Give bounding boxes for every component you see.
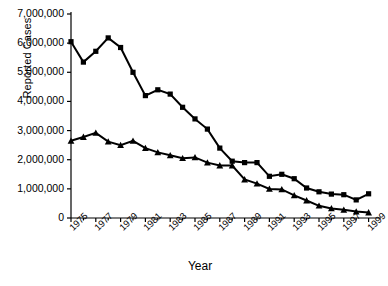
data-point-marker	[341, 192, 346, 197]
data-point-marker	[217, 146, 222, 151]
plot-area	[0, 0, 388, 286]
data-point-marker	[118, 45, 123, 50]
data-point-marker	[267, 174, 272, 179]
data-point-marker	[292, 176, 297, 181]
data-point-marker	[130, 70, 135, 75]
data-point-marker	[106, 35, 111, 40]
data-point-marker	[68, 39, 73, 44]
data-point-marker	[81, 60, 86, 65]
data-point-marker	[279, 172, 284, 177]
data-series	[68, 35, 372, 215]
series-line	[71, 38, 369, 200]
data-point-marker	[316, 189, 321, 194]
data-point-marker	[242, 160, 247, 165]
data-point-marker	[155, 87, 160, 92]
data-point-marker	[366, 191, 371, 196]
data-point-marker	[180, 105, 185, 110]
data-point-marker	[205, 127, 210, 132]
data-point-marker	[93, 49, 98, 54]
data-point-marker	[329, 192, 334, 197]
data-point-marker	[254, 160, 259, 165]
data-point-marker	[143, 93, 148, 98]
data-point-marker	[192, 116, 197, 121]
data-point-marker	[168, 92, 173, 97]
series-line	[71, 133, 369, 213]
data-point-marker	[304, 185, 309, 190]
data-point-marker	[354, 197, 359, 202]
reported-cases-line-chart: Reported Cases Year 01,000,0002,000,0003…	[0, 0, 388, 286]
data-point-marker	[130, 137, 137, 143]
